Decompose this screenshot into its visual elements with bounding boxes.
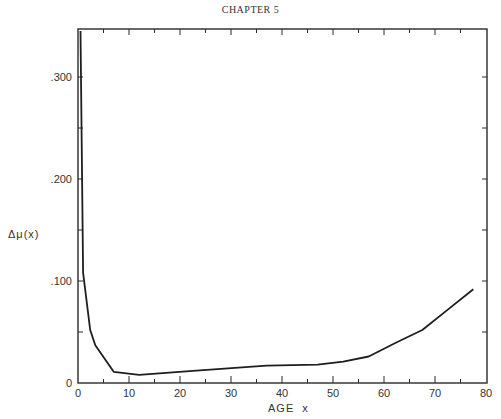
y-axis-label: Δμ(x): [8, 228, 40, 240]
y-tick-label: .100: [51, 275, 72, 287]
x-tick-label: 20: [174, 387, 186, 399]
series-line: [81, 31, 474, 375]
data-series: [81, 31, 474, 375]
axis-tick-labels: 010203040506070800.100.200.300: [51, 71, 493, 399]
x-tick-label: 70: [429, 387, 441, 399]
x-tick-label: 60: [378, 387, 390, 399]
y-tick-label: .200: [51, 173, 72, 185]
x-axis-label: AGEx: [268, 402, 309, 414]
x-tick-label: 50: [327, 387, 339, 399]
x-axis-label-variable: x: [302, 402, 309, 414]
x-tick-label: 80: [480, 387, 492, 399]
axis-ticks: [78, 29, 487, 383]
x-axis-label-text: AGE: [268, 402, 294, 414]
x-tick-label: 10: [123, 387, 135, 399]
plot-frame: [78, 29, 487, 383]
y-tick-label: 0: [66, 377, 72, 389]
plot-border: [78, 29, 487, 383]
x-tick-label: 30: [225, 387, 237, 399]
line-chart: 010203040506070800.100.200.300: [0, 0, 501, 419]
x-tick-label: 0: [75, 387, 81, 399]
y-tick-label: .300: [51, 71, 72, 83]
x-tick-label: 40: [276, 387, 288, 399]
